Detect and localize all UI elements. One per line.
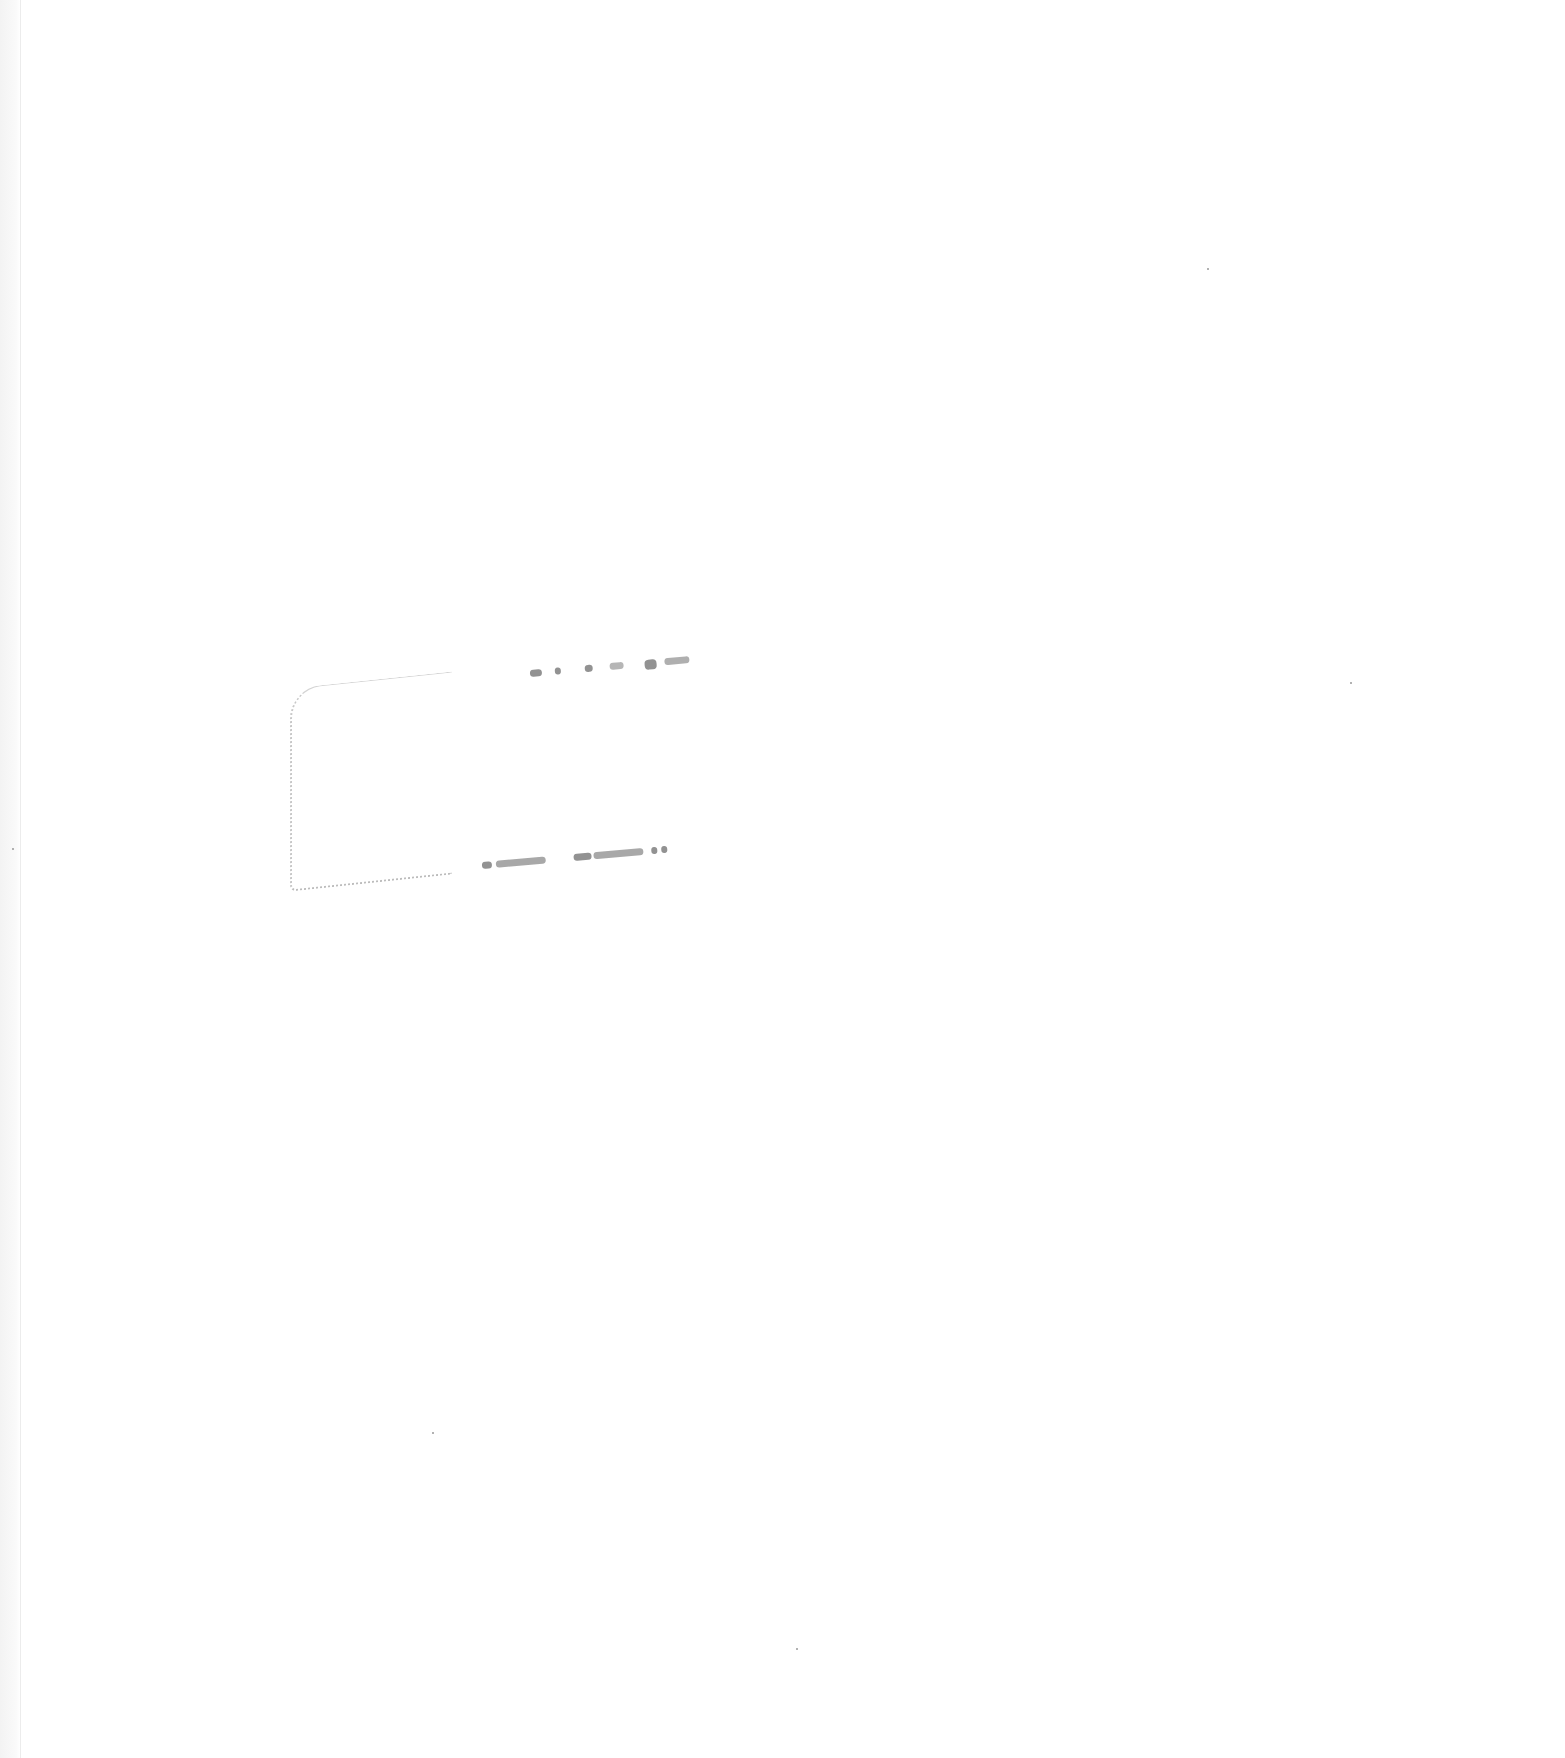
scan-speck [1207,268,1209,270]
upper-smudge-marks [530,655,700,678]
scan-speck [796,1648,798,1650]
scan-speck [12,848,14,850]
scan-speck [1350,682,1352,684]
lower-smudge-marks [482,844,692,870]
faint-stamp-outline [290,671,452,891]
scan-speck [432,1432,434,1434]
scan-page-edge [0,0,21,1758]
